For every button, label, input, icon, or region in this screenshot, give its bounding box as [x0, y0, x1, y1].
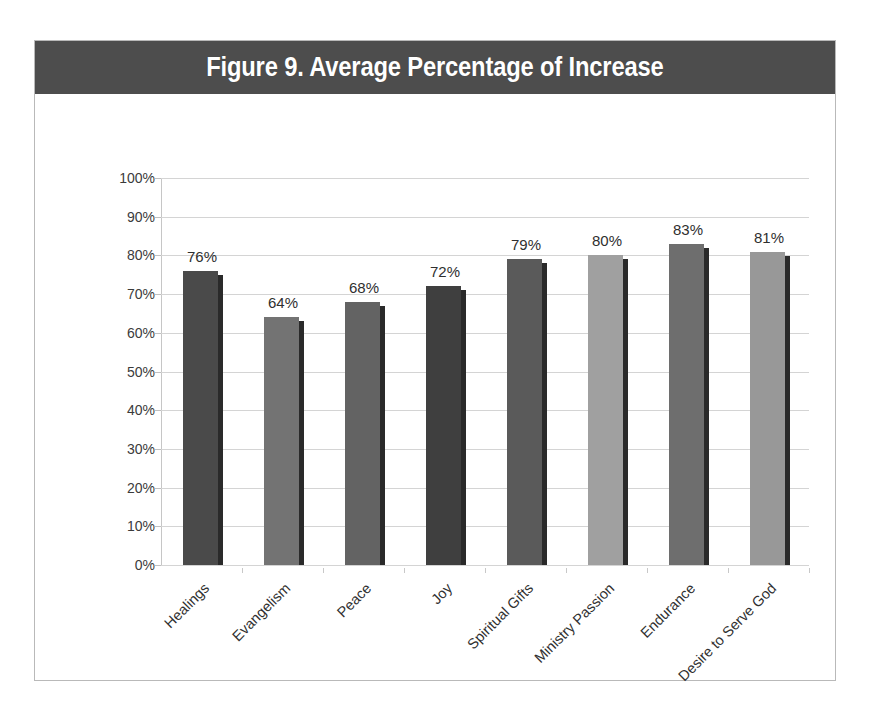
bar-shadow — [218, 275, 223, 565]
y-axis-tick-label: 50% — [103, 364, 155, 380]
gridline — [161, 488, 809, 489]
gridline — [161, 526, 809, 527]
y-axis-tick-mark — [155, 178, 161, 179]
figure-frame: Figure 9. Average Percentage of Increase… — [34, 40, 836, 681]
bar-value-label: 79% — [500, 236, 552, 253]
x-axis-tick-mark — [323, 568, 324, 573]
y-axis-tick-label: 80% — [103, 247, 155, 263]
y-axis-tick-mark — [155, 526, 161, 527]
bar-shadow — [542, 263, 547, 565]
bar[interactable] — [345, 302, 380, 565]
bar-group[interactable]: 64% — [264, 178, 304, 565]
y-axis-tick-mark — [155, 255, 161, 256]
bar-value-label: 83% — [662, 221, 714, 238]
bar[interactable] — [507, 259, 542, 565]
gridline — [161, 449, 809, 450]
y-axis-tick-label: 20% — [103, 480, 155, 496]
y-axis-tick-mark — [155, 488, 161, 489]
y-axis-tick-mark — [155, 333, 161, 334]
bar-group[interactable]: 79% — [507, 178, 547, 565]
bar-shadow — [380, 306, 385, 565]
bar-value-label: 64% — [257, 294, 309, 311]
bar-value-label: 76% — [176, 248, 228, 265]
gridline — [161, 255, 809, 256]
bar-shadow — [461, 290, 466, 565]
bar-value-label: 68% — [338, 279, 390, 296]
x-axis-tick-mark — [809, 568, 810, 573]
y-axis-tick-mark — [155, 449, 161, 450]
gridline — [161, 333, 809, 334]
bar-value-label: 81% — [743, 229, 795, 246]
y-axis-tick-label: 60% — [103, 325, 155, 341]
page-title: Figure 9. Average Percentage of Increase — [206, 52, 663, 83]
x-axis-tick-mark — [647, 568, 648, 573]
bar[interactable] — [750, 252, 785, 565]
bar-group[interactable]: 83% — [669, 178, 709, 565]
bar-shadow — [299, 321, 304, 565]
bar[interactable] — [669, 244, 704, 565]
y-axis-tick-mark — [155, 565, 161, 566]
y-axis-tick-label: 90% — [103, 209, 155, 225]
bar[interactable] — [588, 255, 623, 565]
bar-group[interactable]: 81% — [750, 178, 790, 565]
plot-area: 76%64%68%72%79%80%83%81% — [161, 178, 809, 565]
bar-group[interactable]: 72% — [426, 178, 466, 565]
y-axis-tick-label: 100% — [103, 170, 155, 186]
bar-value-label: 72% — [419, 263, 471, 280]
chart-canvas: 100%90%80%70%60%50%40%30%20%10%0% 76%64%… — [35, 94, 835, 680]
x-axis-tick-mark — [566, 568, 567, 573]
bar[interactable] — [426, 286, 461, 565]
x-axis-tick-mark — [728, 568, 729, 573]
y-axis-tick-mark — [155, 410, 161, 411]
x-axis-tick-mark — [485, 568, 486, 573]
bar[interactable] — [183, 271, 218, 565]
y-axis-tick-label: 40% — [103, 402, 155, 418]
figure-title-band: Figure 9. Average Percentage of Increase — [35, 41, 835, 94]
gridline — [161, 565, 809, 566]
y-axis-tick-mark — [155, 372, 161, 373]
y-axis-tick-mark — [155, 217, 161, 218]
bar-shadow — [704, 248, 709, 565]
x-axis-category-label: Desire to Serve God — [626, 580, 779, 714]
bar-shadow — [785, 256, 790, 565]
bar[interactable] — [264, 317, 299, 565]
y-axis-tick-label: 0% — [103, 557, 155, 573]
y-axis-tick-label: 10% — [103, 518, 155, 534]
gridline — [161, 217, 809, 218]
bar-group[interactable]: 76% — [183, 178, 223, 565]
bar-shadow — [623, 259, 628, 565]
x-axis-tick-mark — [242, 568, 243, 573]
bar-group[interactable]: 80% — [588, 178, 628, 565]
x-axis-category-labels: HealingsEvangelismPeaceJoySpiritual Gift… — [161, 568, 821, 680]
x-axis-tick-mark — [404, 568, 405, 573]
y-axis-tick-mark — [155, 294, 161, 295]
y-axis-tick-label: 70% — [103, 286, 155, 302]
y-axis-tick-labels: 100%90%80%70%60%50%40%30%20%10%0% — [93, 178, 155, 565]
gridline — [161, 372, 809, 373]
bar-value-label: 80% — [581, 232, 633, 249]
gridline — [161, 410, 809, 411]
bar-group[interactable]: 68% — [345, 178, 385, 565]
y-axis-tick-label: 30% — [103, 441, 155, 457]
gridline — [161, 178, 809, 179]
